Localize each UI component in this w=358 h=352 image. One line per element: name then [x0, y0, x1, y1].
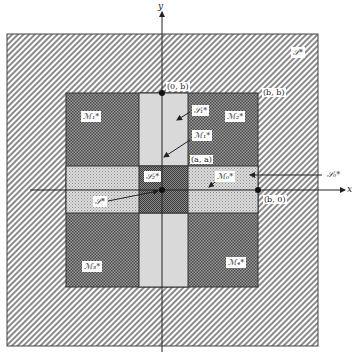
- label-s2-center: 𝒮₂*: [144, 171, 161, 182]
- label-s0-arrow: 𝒮₀*: [325, 169, 342, 180]
- label-m3-bottomleft: ℳ₃*: [82, 261, 102, 272]
- label-m2-topright: ℳ₂*: [225, 111, 245, 122]
- x-axis-label: x: [347, 184, 352, 194]
- label-s-center-arrow: 𝒮*: [93, 196, 107, 207]
- label-m1-topleft: ℳ₁*: [81, 111, 101, 122]
- label-outer: 𝒮*: [291, 47, 305, 58]
- label-m1-band: ℳ₁*: [192, 130, 212, 141]
- label-m0-band: ℳ₀*: [215, 171, 235, 182]
- point-0-b: [159, 90, 165, 96]
- point-origin: [159, 187, 165, 193]
- coord-0-b: (0, b): [166, 82, 190, 91]
- coord-a-a: (a, a): [190, 155, 213, 164]
- y-axis-label: y: [158, 1, 163, 11]
- coord-b-0: (b, 0): [263, 195, 287, 204]
- label-s1-band: 𝒮₁*: [192, 105, 209, 116]
- label-m4-bottomright: ℳ₄*: [226, 257, 246, 268]
- point-b-0: [255, 187, 261, 193]
- coord-b-b: (b, b): [262, 88, 286, 97]
